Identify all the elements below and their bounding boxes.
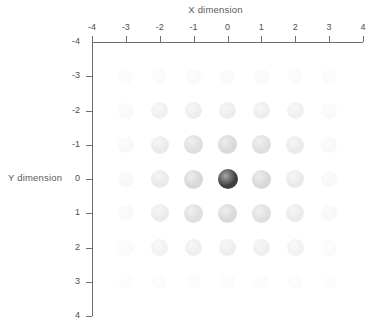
- plot-area: [92, 42, 363, 316]
- data-point-marker: [118, 103, 134, 119]
- data-point-marker: [321, 240, 337, 256]
- x-axis-title: X dimension: [0, 4, 376, 15]
- data-point-marker: [218, 135, 237, 154]
- y-tick-label: 2: [56, 242, 80, 252]
- y-tick-label: -1: [56, 139, 80, 149]
- data-point-marker: [118, 205, 134, 221]
- y-tick-label: 3: [56, 276, 80, 286]
- data-point-marker: [220, 274, 235, 289]
- chart-canvas: X dimension Y dimension -4-3-2-101234 -4…: [0, 0, 376, 332]
- data-point-marker: [286, 170, 304, 188]
- data-point-marker: [253, 102, 270, 119]
- x-tick-label: 1: [249, 22, 273, 32]
- data-point-marker: [118, 171, 134, 187]
- data-point-marker: [321, 205, 337, 221]
- data-point-marker: [321, 137, 337, 153]
- x-tick-label: -1: [182, 22, 206, 32]
- data-point-marker: [219, 239, 236, 256]
- data-point-marker: [184, 204, 203, 223]
- y-tick-label: -2: [56, 105, 80, 115]
- data-point-marker: [152, 274, 167, 289]
- data-point-marker: [252, 170, 271, 189]
- data-point-marker: [218, 169, 238, 189]
- x-tick-label: 3: [317, 22, 341, 32]
- x-tick-label: -2: [148, 22, 172, 32]
- data-point-marker: [118, 274, 133, 289]
- data-point-marker: [118, 69, 133, 84]
- y-tick-label: 0: [56, 173, 80, 183]
- data-point-marker: [185, 102, 202, 119]
- data-point-marker: [151, 204, 169, 222]
- data-point-marker: [254, 69, 269, 84]
- data-point-marker: [287, 239, 304, 256]
- data-point-marker: [253, 239, 270, 256]
- data-point-marker: [288, 69, 303, 84]
- data-point-marker: [151, 170, 169, 188]
- y-axis-title: Y dimension: [8, 172, 62, 183]
- x-tick-mark: [363, 36, 364, 42]
- x-tick-label: -3: [114, 22, 138, 32]
- data-point-marker: [322, 274, 337, 289]
- data-point-marker: [185, 239, 202, 256]
- data-point-marker: [321, 171, 337, 187]
- x-tick-label: -4: [80, 22, 104, 32]
- data-point-marker: [118, 240, 134, 256]
- y-tick-label: -4: [56, 36, 80, 46]
- data-point-marker: [220, 69, 235, 84]
- x-tick-label: 4: [351, 22, 375, 32]
- data-point-marker: [322, 69, 337, 84]
- data-point-marker: [184, 135, 203, 154]
- y-tick-label: -3: [56, 70, 80, 80]
- data-point-marker: [118, 137, 134, 153]
- data-point-marker: [184, 170, 203, 189]
- data-point-marker: [151, 239, 168, 256]
- x-tick-label: 2: [283, 22, 307, 32]
- data-point-marker: [186, 274, 201, 289]
- data-point-marker: [252, 135, 271, 154]
- data-point-marker: [252, 204, 271, 223]
- y-tick-mark: [86, 316, 92, 317]
- data-point-marker: [286, 136, 304, 154]
- data-point-marker: [152, 69, 167, 84]
- data-point-marker: [321, 103, 337, 119]
- data-point-marker: [151, 102, 168, 119]
- y-tick-label: 1: [56, 207, 80, 217]
- data-point-marker: [287, 102, 304, 119]
- data-point-marker: [186, 69, 201, 84]
- data-point-marker: [254, 274, 269, 289]
- data-point-marker: [288, 274, 303, 289]
- x-tick-label: 0: [216, 22, 240, 32]
- data-point-marker: [218, 204, 237, 223]
- data-point-marker: [286, 204, 304, 222]
- y-tick-label: 4: [56, 310, 80, 320]
- data-point-marker: [219, 102, 236, 119]
- data-point-marker: [151, 136, 169, 154]
